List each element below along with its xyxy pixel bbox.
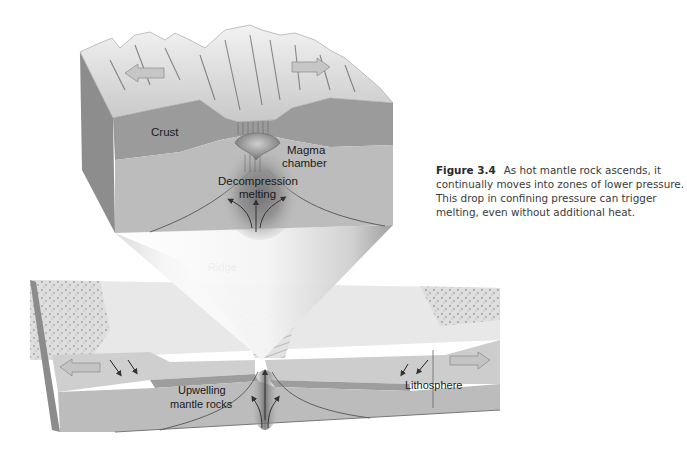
magma-chamber-label-line1: Magma: [287, 144, 326, 156]
top-block: Crust Magma chamber Decompression meltin…: [80, 25, 393, 240]
lithosphere-label: Lithosphere: [405, 379, 463, 391]
upwelling-label-line2: mantle rocks: [170, 398, 233, 410]
decompression-label-line2: melting: [239, 188, 276, 200]
upwelling-label-line1: Upwelling: [178, 384, 226, 396]
magma-chamber-label-line2: chamber: [282, 157, 327, 169]
figure-number: Figure 3.4: [436, 164, 496, 176]
decompression-label-line1: Decompression: [218, 175, 298, 187]
crust-label: Crust: [151, 126, 179, 138]
figure-caption: Figure 3.4As hot mantle rock ascends, it…: [436, 163, 686, 219]
seafloor-spreading-diagram: Ridge Upwelling mantle rocks Lithosphere: [0, 0, 687, 449]
